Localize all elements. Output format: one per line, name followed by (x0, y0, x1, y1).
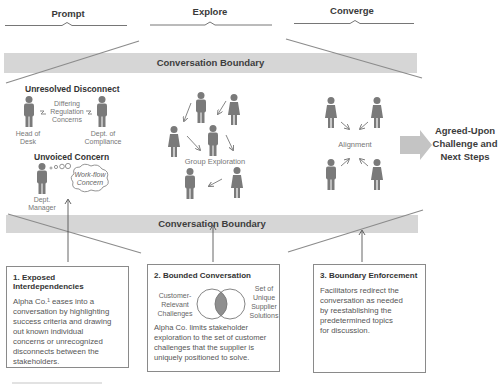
box-bounded-conversation: 2. Bounded Conversation Customer- Releva… (147, 264, 280, 372)
box-2-title: 2. Bounded Conversation (154, 271, 279, 280)
box-exposed-interdependencies: 1. Exposed Interdependencies Alpha Co.¹ … (6, 266, 129, 368)
group-exploration-graphic (0, 0, 495, 260)
box-2-body: Alpha Co. limits stakeholder exploration… (154, 323, 266, 363)
box-3-body: Facilitators redirect the conversation a… (320, 286, 419, 336)
venn-left-label: Customer- Relevant Challenges (154, 291, 196, 318)
box-1-title: 1. Exposed Interdependencies (13, 273, 128, 291)
group-exploration-label: Group Exploration (175, 158, 255, 166)
venn-right-label: Set of Unique Supplier Solutions (246, 284, 282, 320)
footnote-line (12, 382, 102, 384)
box-boundary-enforcement: 3. Boundary Enforcement Facilitators red… (313, 264, 426, 373)
box-1-body: Alpha Co.¹ eases into a conversation by … (13, 297, 122, 367)
outcome-label: Agreed-Upon Challenge and Next Steps (432, 124, 498, 163)
venn-diagram-icon (196, 287, 246, 321)
alignment-label: Alignment (325, 141, 385, 149)
outcome-arrow-icon (400, 130, 432, 160)
box-3-title: 3. Boundary Enforcement (320, 271, 425, 280)
